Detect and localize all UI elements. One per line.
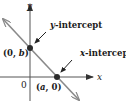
graph-line-lower: [30, 48, 79, 100]
intercept-diagram: y x 0 y-intercept x-intercept (0, b) (a,…: [0, 0, 126, 103]
x-intercept-coordinates: (a, 0): [36, 82, 61, 93]
x-intercept-point: [54, 74, 60, 80]
y-point-open: (0,: [3, 48, 19, 59]
y-intercept-pointer-arrow: [35, 32, 46, 43]
x-point-close: , 0): [46, 82, 62, 93]
graph-line: [3, 19, 30, 48]
y-point-close: ): [25, 48, 29, 58]
y-axis-label: y: [26, 1, 33, 11]
origin-label: 0: [21, 80, 27, 90]
x-intercept-label-text: -intercept: [85, 48, 126, 58]
y-intercept-coordinates: (0, b): [3, 48, 29, 59]
x-axis-label: x: [97, 72, 102, 82]
y-intercept-label-text: -intercept: [55, 20, 102, 30]
x-intercept-label: x-intercept: [79, 48, 126, 58]
x-intercept-pointer-arrow: [61, 60, 72, 72]
y-intercept-label: y-intercept: [49, 20, 102, 30]
